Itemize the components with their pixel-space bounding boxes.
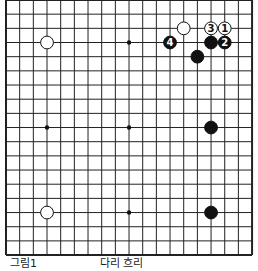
figure-caption: 다리 흐리	[100, 257, 144, 271]
move-number: 3	[208, 23, 215, 34]
black-stone: 2	[218, 36, 231, 49]
black-stone	[205, 121, 218, 134]
black-stone: 4	[164, 36, 177, 49]
stones: 3142	[41, 22, 232, 219]
move-number: 2	[221, 37, 228, 48]
move-number: 1	[221, 23, 228, 34]
move-number: 4	[167, 37, 174, 48]
star-point	[127, 210, 131, 214]
white-stone: 1	[218, 22, 231, 35]
star-point	[127, 40, 131, 44]
white-stone: 3	[205, 22, 218, 35]
black-stone	[205, 36, 218, 49]
white-stone	[41, 36, 54, 49]
white-stone	[177, 22, 190, 35]
star-point	[127, 125, 131, 129]
black-stone	[205, 206, 218, 219]
figure-label: 그림1	[10, 257, 37, 271]
black-stone	[191, 50, 204, 63]
white-stone	[41, 206, 54, 219]
go-board: 3142	[0, 0, 258, 256]
star-point	[45, 125, 49, 129]
